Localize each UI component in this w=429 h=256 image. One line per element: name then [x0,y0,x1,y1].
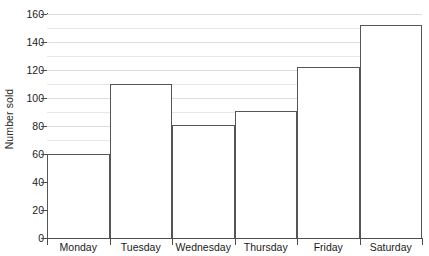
x-tick-mark [297,239,298,245]
x-tick-mark [422,239,423,245]
bar-saturday [360,25,423,238]
y-tick-mark [41,210,47,211]
bar-wednesday [172,125,235,238]
y-tick-mark [41,70,47,71]
y-tick-mark [41,154,47,155]
bar-chart-figure: Number sold 020406080100120140160 Monday… [0,0,429,256]
y-tick-mark [41,42,47,43]
x-tick-label-friday: Friday [314,241,343,253]
y-axis-tick-labels: 020406080100120140160 [16,14,44,238]
bars-layer [47,14,422,238]
bar-friday [297,67,360,238]
x-tick-label-thursday: Thursday [244,241,288,253]
bar-monday [47,154,110,238]
x-tick-mark [172,239,173,245]
y-tick-mark [41,126,47,127]
x-tick-label-monday: Monday [60,241,97,253]
y-tick-mark [41,182,47,183]
x-tick-mark [47,239,48,245]
x-tick-mark [235,239,236,245]
x-tick-mark [110,239,111,245]
x-tick-label-wednesday: Wednesday [176,241,231,253]
x-tick-label-saturday: Saturday [370,241,412,253]
y-tick-mark [41,14,47,15]
y-tick-mark [41,98,47,99]
x-tick-mark [360,239,361,245]
plot-area [47,14,422,238]
bar-thursday [235,111,298,238]
bar-tuesday [110,84,173,238]
x-tick-label-tuesday: Tuesday [121,241,161,253]
y-axis-title-label: Number sold [3,89,15,150]
